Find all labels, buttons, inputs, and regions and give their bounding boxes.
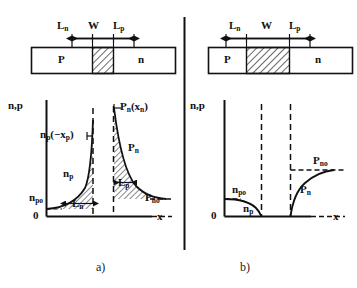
panel-a-x-axis-label: x [157,211,163,222]
panel-a-label-Pn-xn: Pn(xn) [120,101,148,113]
panel-a-region-n-label: n [138,54,144,65]
panel-a-label-Pno: Pno [145,192,160,204]
panel-b-label-Pn: Pn [300,184,311,196]
figure-root: Ln W Lp P n n,p x 0 np(−xp) Pn(xn) np Pn… [0,0,357,288]
panel-a-dim-W-label: W [88,20,99,31]
panel-a-label-np: np [63,168,73,180]
panel-b-depletion-boundaries [262,104,291,216]
panel-b-x-axis-label: x [333,211,339,222]
panel-a-label-Lp: Lp [118,177,130,189]
panel-b-y-axis-label: n,p [190,100,205,111]
panel-a-region-p-label: P [58,54,65,65]
panel-a-dim-Ln-label: Ln [57,20,69,32]
panel-a-label-np-xp: np(−xp) [40,129,74,141]
panel-a-origin-label: 0 [33,210,39,221]
panel-b-dim-Ln-label: Ln [229,20,241,32]
panel-b-origin-label: 0 [211,210,217,221]
panel-b-label-Pno: Pno [313,155,328,167]
panel-b-dim-Lp-label: Lp [289,20,301,32]
figure-graphics [0,0,357,288]
panel-b-region-p-label: P [224,54,231,65]
panel-a-label-Pn: Pn [128,142,139,154]
panel-b-caption: b) [240,260,250,275]
panel-a-dim-Lp-label: Lp [113,20,125,32]
panel-a-caption: a) [96,260,105,275]
panel-b-dim-W-label: W [261,20,272,31]
panel-a-label-npo: npo [29,192,43,204]
panel-a-depletion-boundaries [93,106,114,216]
panel-b-label-np: np [243,203,253,215]
panel-a-label-Ln: Ln [72,198,84,210]
panel-a-device-diagram [32,34,176,74]
panel-b-region-n-label: n [315,54,321,65]
panel-a-y-axis-label: n,p [8,100,23,111]
panel-b-label-npo: npo [232,184,246,196]
